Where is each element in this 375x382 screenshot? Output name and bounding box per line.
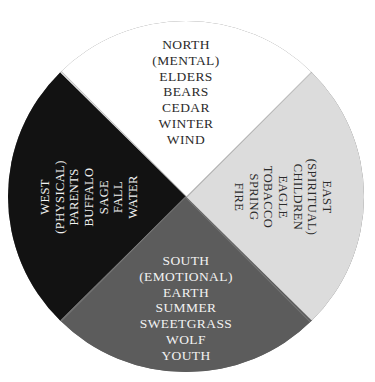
south-line-direction: SOUTH bbox=[8, 253, 364, 269]
quadrant-east-labels: EAST (SPIRITUAL) CHILDREN EAGLE TOBACCO … bbox=[232, 158, 334, 235]
medicine-wheel-circle: NORTH (MENTAL) ELDERS BEARS CEDAR WINTER… bbox=[8, 21, 364, 372]
east-line-direction: EAST bbox=[320, 158, 335, 235]
east-line-animal: EAGLE bbox=[276, 158, 291, 235]
west-line-element: WATER bbox=[126, 160, 141, 233]
south-line-people: YOUTH bbox=[8, 348, 364, 364]
quadrant-west-labels: WEST (PHYSICAL) PARENTS BUFFALO SAGE FAL… bbox=[38, 160, 140, 233]
south-line-medicine: SWEETGRASS bbox=[8, 316, 364, 332]
west-line-medicine: SAGE bbox=[96, 160, 111, 233]
east-line-aspect: (SPIRITUAL) bbox=[305, 158, 320, 235]
north-line-element: WIND bbox=[8, 132, 364, 148]
south-line-season: SUMMER bbox=[8, 300, 364, 316]
north-line-animal: BEARS bbox=[8, 84, 364, 100]
east-line-element: FIRE bbox=[232, 158, 247, 235]
west-line-aspect: (PHYSICAL) bbox=[52, 160, 67, 233]
east-line-medicine: TOBACCO bbox=[261, 158, 276, 235]
medicine-wheel-figure: NORTH (MENTAL) ELDERS BEARS CEDAR WINTER… bbox=[0, 0, 375, 382]
north-line-aspect: (MENTAL) bbox=[8, 53, 364, 69]
north-line-direction: NORTH bbox=[8, 37, 364, 53]
south-line-element: EARTH bbox=[8, 285, 364, 301]
north-line-medicine: CEDAR bbox=[8, 100, 364, 116]
quadrant-south-labels: SOUTH (EMOTIONAL) EARTH SUMMER SWEETGRAS… bbox=[8, 253, 364, 363]
east-line-season: SPRING bbox=[246, 158, 261, 235]
east-line-people: CHILDREN bbox=[290, 158, 305, 235]
quadrant-north-labels: NORTH (MENTAL) ELDERS BEARS CEDAR WINTER… bbox=[8, 37, 364, 147]
south-line-animal: WOLF bbox=[8, 332, 364, 348]
west-line-direction: WEST bbox=[38, 160, 53, 233]
north-line-season: WINTER bbox=[8, 116, 364, 132]
west-line-animal: BUFFALO bbox=[82, 160, 97, 233]
south-line-aspect: (EMOTIONAL) bbox=[8, 269, 364, 285]
north-line-people: ELDERS bbox=[8, 69, 364, 85]
west-line-people: PARENTS bbox=[67, 160, 82, 233]
west-line-season: FALL bbox=[111, 160, 126, 233]
